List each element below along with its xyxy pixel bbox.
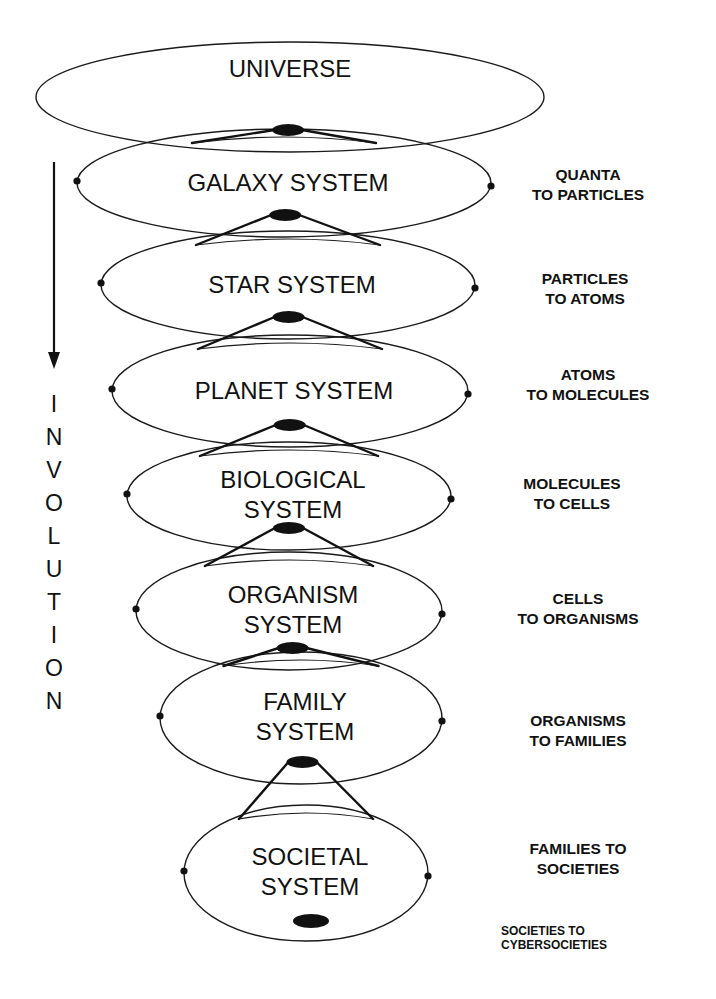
hub-node-icon — [269, 209, 301, 221]
transition-label: QUANTATO PARTICLES — [532, 166, 644, 203]
system-label-organism: ORGANISMSYSTEM — [132, 581, 445, 638]
system-label-star: STAR SYSTEM — [97, 271, 478, 298]
transition-text: QUANTA — [555, 166, 620, 183]
connector-organism-family — [223, 642, 378, 666]
involution-axis: INVOLUTION — [45, 162, 63, 714]
transition-text: CYBERSOCIETIES — [501, 938, 607, 952]
system-name: BIOLOGICAL — [220, 466, 365, 493]
connector-planet-biological — [200, 419, 378, 456]
transition-text: TO ORGANISMS — [517, 610, 638, 627]
transition-text: ORGANISMS — [530, 712, 626, 729]
systems-layer: UNIVERSEGALAXY SYSTEMSTAR SYSTEMPLANET S… — [36, 42, 544, 941]
involution-label: INVOLUTION — [45, 391, 63, 714]
system-name: GALAXY SYSTEM — [188, 169, 389, 196]
involution-letter: O — [45, 655, 63, 681]
connector-line-left — [200, 425, 276, 456]
hub-node-icon — [277, 642, 309, 654]
transition-text: TO FAMILIES — [529, 732, 626, 749]
involution-letter: L — [48, 523, 61, 549]
involution-letter: I — [51, 622, 57, 648]
connector-arc — [196, 239, 380, 245]
system-label-societal: SOCIETALSYSTEM — [180, 843, 431, 900]
left-node-icon — [123, 490, 130, 497]
left-node-icon — [73, 177, 80, 184]
connector-galaxy-star — [196, 209, 380, 245]
transition-text: SOCIETIES — [537, 860, 620, 877]
system-label-family: FAMILYSYSTEM — [156, 688, 445, 745]
system-name: UNIVERSE — [229, 55, 352, 82]
transition-text: TO ATOMS — [545, 290, 625, 307]
left-node-icon — [132, 605, 139, 612]
system-name: SYSTEM — [244, 496, 343, 523]
involution-letter: T — [47, 589, 61, 615]
connector-line-left — [198, 317, 275, 349]
system-name: SOCIETAL — [252, 843, 369, 870]
right-node-icon — [424, 872, 431, 879]
transition-text: SOCIETIES TO — [501, 924, 585, 938]
connector-line-right — [304, 425, 378, 456]
hub-node-icon — [273, 311, 305, 323]
transition-text: PARTICLES — [542, 270, 629, 287]
involution-letter: U — [46, 556, 63, 582]
connector-arc — [200, 450, 378, 456]
involution-letter: N — [46, 424, 63, 450]
hub-node-icon — [293, 914, 329, 928]
left-node-icon — [180, 867, 187, 874]
transition-label: FAMILIES TOSOCIETIES — [529, 840, 626, 877]
system-label-universe: UNIVERSE — [229, 55, 352, 82]
hub-node-icon — [273, 522, 305, 534]
system-name: ORGANISM — [228, 581, 359, 608]
system-name: PLANET SYSTEM — [195, 377, 393, 404]
connector-arc — [198, 343, 382, 349]
system-label-planet: PLANET SYSTEM — [108, 377, 471, 404]
connector-biological-organism — [205, 522, 373, 566]
system-label-biological: BIOLOGICALSYSTEM — [123, 466, 454, 523]
right-node-icon — [438, 610, 445, 617]
involution-diagram: UNIVERSEGALAXY SYSTEMSTAR SYSTEMPLANET S… — [0, 0, 716, 999]
transition-text: TO MOLECULES — [527, 386, 650, 403]
involution-letter: O — [45, 490, 63, 516]
connector-line-left — [239, 762, 289, 819]
left-node-icon — [108, 385, 115, 392]
connector-line-left — [223, 648, 278, 666]
left-node-icon — [97, 279, 104, 286]
connector-arc — [239, 813, 373, 819]
hub-node-icon — [287, 756, 319, 768]
transition-text: MOLECULES — [523, 475, 620, 492]
transition-label: MOLECULESTO CELLS — [523, 475, 620, 512]
transition-text: ATOMS — [561, 366, 616, 383]
transition-text: FAMILIES TO — [529, 840, 626, 857]
system-name: STAR SYSTEM — [208, 271, 376, 298]
transition-text: TO CELLS — [534, 495, 610, 512]
hub-node-icon — [272, 124, 304, 136]
transition-label: CELLSTO ORGANISMS — [517, 590, 638, 627]
transition-label: SOCIETIES TOCYBERSOCIETIES — [501, 924, 607, 952]
involution-letter: N — [46, 688, 63, 714]
connector-line-right — [307, 648, 379, 666]
connector-line-right — [317, 762, 374, 819]
right-node-icon — [447, 495, 454, 502]
system-name: SYSTEM — [256, 718, 355, 745]
system-name: FAMILY — [263, 688, 347, 715]
system-label-galaxy: GALAXY SYSTEM — [73, 169, 494, 196]
transition-label: PARTICLESTO ATOMS — [542, 270, 629, 307]
transition-text: CELLS — [553, 590, 604, 607]
right-node-icon — [438, 717, 445, 724]
right-node-icon — [487, 182, 494, 189]
transitions-layer: QUANTATO PARTICLESPARTICLESTO ATOMSATOMS… — [501, 166, 649, 952]
hub-node-icon — [274, 419, 306, 431]
system-name: SYSTEM — [244, 611, 343, 638]
connector-arc — [205, 560, 373, 566]
system-name: SYSTEM — [261, 873, 360, 900]
involution-letter: I — [51, 391, 57, 417]
transition-label: ATOMSTO MOLECULES — [527, 366, 650, 403]
left-node-icon — [156, 712, 163, 719]
connector-star-planet — [198, 311, 382, 349]
right-node-icon — [464, 390, 471, 397]
involution-letter: V — [46, 457, 62, 483]
connector-universe-galaxy — [192, 124, 376, 143]
right-node-icon — [471, 284, 478, 291]
down-arrow-icon — [48, 352, 60, 369]
transition-text: TO PARTICLES — [532, 186, 644, 203]
transition-label: ORGANISMSTO FAMILIES — [529, 712, 626, 749]
